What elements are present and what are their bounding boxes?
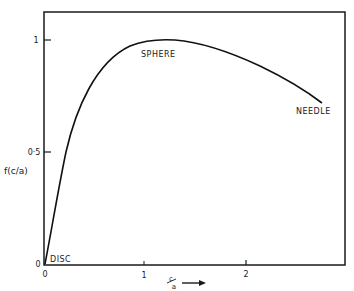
y-tick-label-0-5: 0·5 (28, 148, 41, 157)
curve-f (45, 40, 322, 264)
x-tick-label-2: 2 (243, 270, 248, 279)
x-axis-label: c a (167, 275, 206, 291)
annotation-disc: DISC (50, 255, 71, 264)
chart: 1 0·5 0 0 1 2 f(c/a) c a DISC SPHERE NEE… (0, 0, 354, 291)
y-tick-label-0: 0 (35, 260, 40, 269)
annotation-needle: NEEDLE (296, 107, 331, 116)
x-tick-label-0: 0 (42, 270, 47, 279)
y-axis-label: f(c/a) (4, 166, 28, 176)
y-tick-label-1: 1 (33, 36, 38, 45)
annotation-sphere: SPHERE (141, 50, 176, 59)
x-tick-label-1: 1 (141, 271, 146, 280)
arrow-right-icon (199, 280, 206, 286)
plot-frame (44, 12, 345, 265)
x-axis-label-denominator: a (172, 283, 176, 291)
